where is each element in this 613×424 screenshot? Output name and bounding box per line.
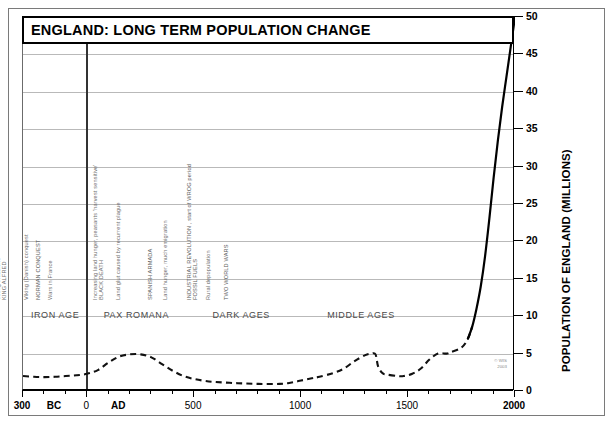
y-axis-label: 5 <box>526 347 532 359</box>
x-axis-era-marker: BC <box>47 400 61 411</box>
x-axis-tick-minor <box>428 390 429 394</box>
y-axis-label: 15 <box>526 272 538 284</box>
x-axis-tick-minor <box>450 390 451 394</box>
x-axis-label: 2000 <box>503 400 525 411</box>
y-axis-label: 50 <box>526 10 538 22</box>
chart-title-box: ENGLAND: LONG TERM POPULATION CHANGE <box>22 16 514 44</box>
plot-area: IRON AGEPAX ROMANADARK AGESMIDDLE AGES W… <box>22 16 514 390</box>
x-axis-tick-minor <box>321 390 322 394</box>
annotation-line: BLACK DEATH <box>98 164 104 300</box>
y-axis-label: 40 <box>526 85 538 97</box>
credit-line: 2003 <box>494 364 507 370</box>
y-axis-tick <box>514 203 523 204</box>
x-axis-tick-minor <box>108 390 109 394</box>
era-label: MIDDLE AGES <box>327 310 395 320</box>
chart-page: IRON AGEPAX ROMANADARK AGESMIDDLE AGES W… <box>0 0 613 424</box>
x-axis-tick-minor <box>279 390 280 394</box>
x-axis-tick-major <box>22 390 23 397</box>
x-axis-tick-minor <box>65 390 66 394</box>
y-axis-tick <box>514 128 523 129</box>
x-axis-tick-minor <box>150 390 151 394</box>
y-axis-tick <box>514 315 523 316</box>
x-axis-tick-minor <box>43 390 44 394</box>
y-axis-label: 45 <box>526 47 538 59</box>
y-axis-title: POPULATION OF ENGLAND (MILLIONS) <box>560 149 572 372</box>
x-axis-tick-major <box>86 390 87 397</box>
event-annotation: TWO WORLD WARS <box>223 244 506 300</box>
era-label: IRON AGE <box>31 310 79 320</box>
x-axis-era-marker: AD <box>111 400 125 411</box>
y-axis-label: 0 <box>526 384 532 396</box>
y-axis-tick <box>514 91 523 92</box>
x-axis-tick-minor <box>386 390 387 394</box>
y-axis-label: 20 <box>526 234 538 246</box>
page-title: ENGLAND: LONG TERM POPULATION CHANGE <box>24 22 371 38</box>
y-axis-tick <box>514 353 523 354</box>
x-axis-tick-minor <box>257 390 258 394</box>
x-axis-label: 1000 <box>289 400 311 411</box>
era-label: PAX ROMANA <box>104 310 169 320</box>
annotation-line: Increasing land hunger, peasants 'harves… <box>92 164 98 300</box>
x-axis-tick-minor <box>129 390 130 394</box>
x-axis-tick-minor <box>236 390 237 394</box>
x-axis-tick-minor <box>172 390 173 394</box>
x-axis-tick-major <box>193 390 194 397</box>
y-axis-tick <box>514 166 523 167</box>
x-axis-tick-minor <box>343 390 344 394</box>
population-curve-historic <box>23 327 472 384</box>
y-axis-tick <box>514 16 523 17</box>
x-axis-tick-minor <box>471 390 472 394</box>
y-axis-label: 35 <box>526 122 538 134</box>
y-axis-label: 10 <box>526 309 538 321</box>
y-axis-tick <box>514 240 523 241</box>
x-axis-label: 0 <box>83 400 89 411</box>
x-axis-tick-minor <box>215 390 216 394</box>
x-axis-label: 500 <box>185 400 202 411</box>
copyright-note: © WIS2003 <box>494 358 507 369</box>
y-axis-label: 25 <box>526 197 538 209</box>
x-axis-label: 1500 <box>396 400 418 411</box>
x-axis-tick-major <box>300 390 301 397</box>
x-axis-tick-major <box>514 390 515 397</box>
y-axis-tick <box>514 53 523 54</box>
y-axis-tick <box>514 278 523 279</box>
y-axis-tick <box>514 390 523 391</box>
era-label: DARK AGES <box>212 310 269 320</box>
x-axis-tick-minor <box>493 390 494 394</box>
x-axis-label: 300 <box>14 400 31 411</box>
x-axis-tick-minor <box>364 390 365 394</box>
y-axis-label: 30 <box>526 160 538 172</box>
annotation-line: KING ALFRED <box>2 258 8 300</box>
credit-line: © WIS <box>494 358 507 364</box>
x-axis-tick-major <box>407 390 408 397</box>
